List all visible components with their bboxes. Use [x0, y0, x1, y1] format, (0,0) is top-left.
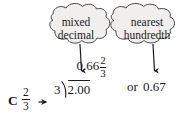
long-division: 3 0.66 2 3 2.00	[54, 80, 90, 98]
callout-mixed-decimal-line2: decimal	[46, 29, 106, 42]
quotient-fraction-denominator: 3	[100, 68, 106, 79]
math-expression: C 2 3 3 0.66 2 3	[0, 75, 190, 117]
arrow-nearest-hundredth	[153, 44, 155, 71]
conjunction-or: or	[127, 79, 138, 95]
division-bracket-icon	[61, 81, 68, 98]
callout-label-nearest-hundredth: nearest hundredth	[113, 16, 181, 42]
source-fraction-denominator: 3	[22, 101, 30, 113]
quotient-fraction-numerator: 2	[100, 55, 106, 66]
figure-canvas: mixed decimal nearest hundredth C 2 3 3	[0, 0, 190, 123]
quotient-fraction: 2 3	[100, 55, 106, 79]
rounded-result: 0.67	[143, 79, 166, 95]
source-fraction: 2 3	[22, 87, 30, 112]
right-arrow-icon	[38, 97, 52, 107]
callout-mixed-decimal-line1: mixed	[46, 16, 106, 29]
source-fraction-numerator: 2	[22, 87, 30, 99]
dividend: 2.00	[68, 82, 91, 97]
callout-nearest-hundredth-line1: nearest	[113, 16, 181, 29]
callout-label-mixed-decimal: mixed decimal	[46, 16, 106, 42]
quotient-whole-part: 0.66	[77, 58, 100, 73]
quotient: 0.66 2 3	[77, 55, 106, 79]
dividend-group: 0.66 2 3 2.00	[68, 80, 91, 98]
callout-nearest-hundredth-line2: hundredth	[113, 29, 181, 42]
problem-label: C	[8, 93, 18, 109]
